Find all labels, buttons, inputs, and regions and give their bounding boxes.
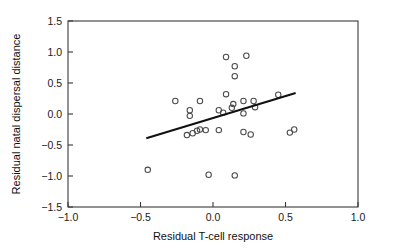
y-axis-tick-labels: 1.5 1.0 0.5 0.0 −0.5 −1.0 −1.5	[41, 15, 62, 213]
data-point	[197, 98, 202, 103]
scatter-plot-figure: 1.5 1.0 0.5 0.0 −0.5 −1.0 −1.5 −1.0 −0.5…	[0, 0, 394, 249]
x-axis-tick-labels: −1.0 −0.5 0.0 0.5 1.0	[58, 211, 366, 223]
data-point	[241, 98, 246, 103]
y-axis-ticks	[68, 21, 73, 207]
y-axis-title: Residual natal dispersal distance	[10, 34, 22, 195]
y-tick-label: 1.0	[47, 46, 62, 58]
data-point	[232, 73, 237, 78]
data-point	[241, 111, 246, 116]
data-point	[232, 173, 237, 178]
y-tick-label: −0.5	[41, 139, 62, 151]
plot-frame	[68, 21, 358, 207]
data-point	[244, 53, 249, 58]
data-point	[223, 54, 228, 59]
data-point	[248, 132, 253, 137]
data-point	[216, 127, 221, 132]
data-point	[241, 129, 246, 134]
data-point	[187, 108, 192, 113]
x-tick-label: 0.0	[206, 211, 221, 223]
x-tick-label: −1.0	[58, 211, 79, 223]
data-point	[292, 127, 297, 132]
y-tick-label: −1.0	[41, 170, 62, 182]
data-point	[223, 91, 228, 96]
y-tick-label: 0.5	[47, 77, 62, 89]
plot-canvas: 1.5 1.0 0.5 0.0 −0.5 −1.0 −1.5 −1.0 −0.5…	[0, 0, 394, 249]
data-point	[203, 127, 208, 132]
data-point	[206, 172, 211, 177]
data-point	[145, 167, 150, 172]
x-axis-ticks	[68, 202, 358, 207]
data-point	[184, 132, 189, 137]
y-tick-label: 0.0	[47, 108, 62, 120]
x-tick-label: 0.5	[278, 211, 293, 223]
data-point	[251, 98, 256, 103]
x-tick-label: −0.5	[130, 211, 151, 223]
data-point	[173, 98, 178, 103]
data-point	[232, 64, 237, 69]
x-tick-label: 1.0	[351, 211, 366, 223]
y-tick-label: 1.5	[47, 15, 62, 27]
x-axis-title: Residual T-cell response	[153, 230, 273, 242]
data-point	[187, 113, 192, 118]
